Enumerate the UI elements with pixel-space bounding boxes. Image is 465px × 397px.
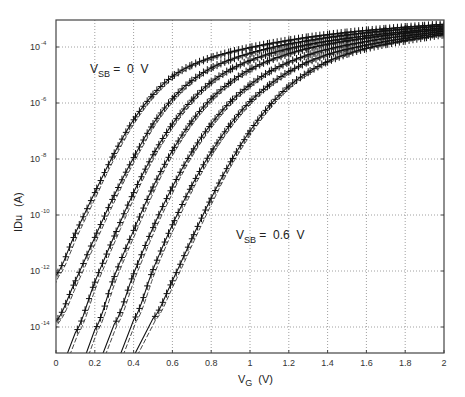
x-tick-label: 1.8: [399, 358, 412, 368]
x-tick-label: 2: [441, 358, 446, 368]
y-tick-label: 10: [30, 154, 40, 164]
measured-curve: [17, 24, 444, 360]
data-marker: [78, 317, 84, 325]
measured-curve: [131, 35, 444, 361]
y-axis-label: IDu(A): [12, 192, 24, 232]
data-marker: [179, 85, 185, 93]
data-marker: [123, 244, 129, 252]
y-tick-label: 10: [30, 210, 40, 220]
model-curve: [86, 30, 446, 362]
data-marker: [202, 206, 208, 214]
data-marker: [235, 53, 241, 61]
data-marker: [142, 165, 148, 173]
data-marker: [67, 243, 73, 251]
x-axis-label: VG(V): [238, 373, 273, 388]
id-vg-chart: 00.20.40.60.811.21.41.61.82 10-410-610-8…: [0, 0, 465, 397]
x-tick-label: 0: [53, 358, 58, 368]
data-marker: [88, 242, 94, 250]
data-marker: [212, 187, 218, 195]
data-marker: [138, 173, 144, 181]
data-marker: [119, 176, 125, 184]
x-tick-label: 1: [247, 358, 252, 368]
y-tick-label: 10: [30, 266, 40, 276]
data-marker: [231, 47, 237, 55]
data-marker: [123, 168, 129, 176]
annotation-vsb-0-6: VSB = 0.6 V: [236, 228, 304, 245]
y-tick-exponent: -6: [41, 96, 47, 102]
y-tick-exponent: -14: [41, 320, 50, 326]
x-tick-label: 1.4: [321, 358, 334, 368]
data-curves: [17, 20, 447, 362]
x-tick-label: 0.6: [166, 358, 179, 368]
data-marker: [199, 86, 205, 94]
data-marker: [257, 61, 263, 69]
data-marker: [296, 62, 302, 70]
data-marker: [179, 201, 185, 209]
data-marker: [162, 79, 168, 87]
data-marker: [179, 66, 185, 74]
data-marker: [59, 262, 65, 270]
data-marker: [100, 259, 106, 267]
data-marker: [243, 50, 249, 58]
data-marker: [202, 83, 208, 91]
data-marker: [102, 169, 108, 177]
data-marker: [193, 59, 199, 67]
y-tick-label: 10: [30, 98, 40, 108]
annotation-vsb-0: VSB = 0 V: [90, 62, 148, 79]
data-marker: [105, 161, 111, 169]
data-marker: [154, 175, 160, 183]
y-tick-label: 10: [30, 322, 40, 332]
measured-curve: [84, 30, 444, 361]
data-marker: [185, 243, 191, 251]
data-marker: [121, 298, 127, 306]
data-marker: [218, 51, 224, 59]
x-tick-label: 1.2: [283, 358, 296, 368]
data-marker: [222, 58, 228, 66]
y-tick-label: 10: [30, 42, 40, 52]
data-marker: [292, 64, 298, 72]
data-marker: [214, 89, 220, 97]
data-marker: [173, 269, 179, 277]
data-marker: [76, 268, 82, 276]
data-marker: [315, 62, 321, 70]
data-marker: [164, 195, 170, 203]
y-tick-exponent: -12: [41, 264, 50, 270]
data-marker: [136, 304, 142, 312]
data-marker: [84, 205, 90, 213]
y-tick-exponent: -4: [41, 40, 47, 46]
data-marker: [290, 56, 296, 64]
x-tick-label: 0.2: [89, 358, 102, 368]
x-tick-label: 0.4: [127, 358, 140, 368]
data-marker: [98, 177, 104, 185]
data-marker: [158, 168, 164, 176]
data-marker: [146, 232, 152, 240]
model-curve: [19, 25, 446, 362]
data-marker: [222, 50, 228, 58]
y-tick-exponent: -8: [41, 152, 47, 158]
y-tick-exponent: -10: [41, 208, 50, 214]
data-marker: [233, 92, 239, 100]
data-marker: [253, 92, 259, 100]
data-marker: [136, 213, 142, 221]
x-tick-label: 0.8: [205, 358, 218, 368]
data-marker: [105, 204, 111, 212]
x-tick-label: 1.6: [360, 358, 373, 368]
data-marker: [125, 201, 131, 209]
data-marker: [63, 300, 69, 308]
data-marker: [214, 52, 220, 60]
